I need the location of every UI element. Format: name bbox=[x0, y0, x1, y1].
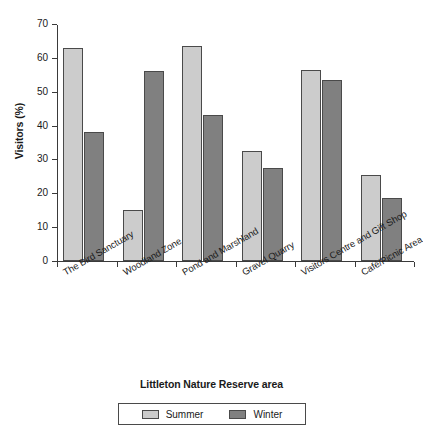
bar-summer bbox=[361, 175, 381, 261]
y-tick-10: 10 bbox=[52, 227, 57, 228]
x-tick-6 bbox=[414, 262, 415, 267]
bar-summer bbox=[182, 46, 202, 261]
y-tick-label-0: 0 bbox=[42, 254, 48, 267]
bar-summer bbox=[301, 70, 321, 261]
bar-winter bbox=[203, 115, 223, 261]
bar-summer bbox=[63, 48, 83, 261]
x-axis-title: Littleton Nature Reserve area bbox=[0, 378, 423, 390]
y-tick-40: 40 bbox=[52, 126, 57, 127]
y-axis-line bbox=[57, 25, 58, 263]
y-tick-label-70: 70 bbox=[37, 17, 48, 30]
y-tick-label-50: 50 bbox=[37, 85, 48, 98]
x-tick-0 bbox=[57, 262, 58, 267]
bar-winter bbox=[144, 71, 164, 261]
bar-winter bbox=[84, 132, 104, 261]
legend-label-summer: Summer bbox=[166, 409, 204, 420]
y-tick-label-20: 20 bbox=[37, 186, 48, 199]
y-tick-30: 30 bbox=[52, 159, 57, 160]
legend-entry-winter: Winter bbox=[229, 409, 282, 420]
bar-winter bbox=[322, 80, 342, 261]
legend-swatch-summer bbox=[142, 410, 159, 419]
bar-chart: Visitors (%) 010203040506070 The Bird Sa… bbox=[0, 0, 423, 446]
y-tick-label-60: 60 bbox=[37, 51, 48, 64]
y-tick-70: 70 bbox=[52, 24, 57, 25]
legend-swatch-winter bbox=[229, 410, 246, 419]
x-tick-3 bbox=[236, 262, 237, 267]
y-tick-50: 50 bbox=[52, 92, 57, 93]
x-tick-2 bbox=[176, 262, 177, 267]
legend-label-winter: Winter bbox=[253, 409, 282, 420]
y-tick-label-30: 30 bbox=[37, 152, 48, 165]
y-tick-label-40: 40 bbox=[37, 119, 48, 132]
x-tick-1 bbox=[117, 262, 118, 267]
plot-area: 010203040506070 bbox=[57, 25, 414, 262]
legend-entry-summer: Summer bbox=[142, 409, 204, 420]
y-tick-label-10: 10 bbox=[37, 220, 48, 233]
y-tick-20: 20 bbox=[52, 193, 57, 194]
x-tick-4 bbox=[295, 262, 296, 267]
y-tick-60: 60 bbox=[52, 58, 57, 59]
legend: Summer Winter bbox=[118, 403, 306, 425]
bar-summer bbox=[242, 151, 262, 261]
x-tick-5 bbox=[355, 262, 356, 267]
y-axis-title: Visitors (%) bbox=[13, 76, 25, 186]
